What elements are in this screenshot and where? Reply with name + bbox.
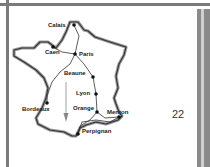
city-label-menton: Menton (107, 109, 128, 115)
city-label-lyon: Lyon (76, 90, 90, 96)
city-label-paris: Paris (79, 51, 94, 57)
city-label-orange: Orange (73, 105, 94, 111)
france-map: Calais Caen Paris Beaune Lyon Bordeaux O… (0, 0, 210, 167)
city-label-perpignan: Perpignan (82, 128, 111, 134)
city-label-caen: Caen (45, 49, 60, 55)
page-number: 22 (172, 108, 184, 120)
city-markers (45, 23, 121, 136)
france-outline (14, 22, 126, 136)
city-label-bordeaux: Bordeaux (22, 106, 50, 112)
direction-arrow-icon (64, 82, 69, 122)
france-outline-map (0, 0, 210, 167)
city-label-calais: Calais (48, 22, 66, 28)
city-label-beaune: Beaune (64, 70, 86, 76)
